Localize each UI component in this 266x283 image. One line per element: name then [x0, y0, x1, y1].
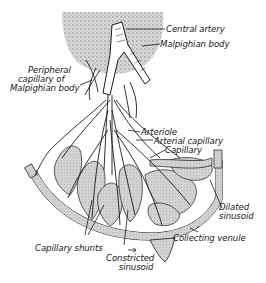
- label-malpighian-body: Malpighian body: [160, 40, 229, 49]
- label-constricted-sinusoid: Constricted sinusoid: [106, 254, 154, 272]
- label-peripheral-capillary-line3: Malpighian body: [10, 84, 79, 93]
- label-central-artery: Central artery: [166, 25, 225, 34]
- label-peripheral-capillary: Peripheral capillary of Malpighian body: [10, 66, 79, 93]
- label-constricted-sinusoid-line2: sinusoid: [106, 263, 154, 272]
- label-dilated-sinusoid: Dilated sinusoid: [219, 203, 254, 221]
- label-capillary: Capillary: [165, 146, 202, 155]
- label-dilated-sinusoid-line2: sinusoid: [219, 212, 254, 221]
- label-collecting-venule: Collecting venule: [173, 234, 246, 243]
- label-capillary-shunts: Capillary shunts: [35, 244, 103, 253]
